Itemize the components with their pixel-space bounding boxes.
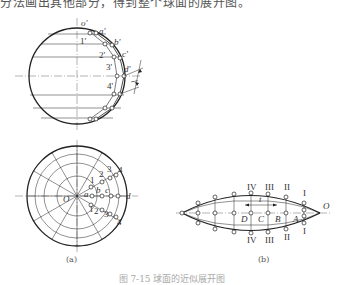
development-view xyxy=(176,191,330,235)
label-O-center: O xyxy=(63,194,70,204)
label-3-prime: 3' xyxy=(106,62,113,72)
upper-num-1: 1 xyxy=(90,175,95,185)
upper-roman-III: III xyxy=(265,182,274,192)
lower-roman-I: I xyxy=(303,226,306,236)
lower-num-4: 4 xyxy=(117,217,122,227)
label-4-prime: 4' xyxy=(107,81,114,91)
front-view xyxy=(15,18,143,130)
upper-num-3: 3 xyxy=(107,164,112,174)
upper-roman-I: I xyxy=(303,188,306,198)
label-1-prime: 1' xyxy=(80,36,87,46)
label-c: c xyxy=(105,185,109,195)
label-b-prime: b' xyxy=(114,37,122,47)
upper-num-2: 2 xyxy=(99,169,104,179)
label-C: C xyxy=(258,214,265,224)
label-D: D xyxy=(240,214,248,224)
upper-roman-IV: IV xyxy=(247,182,257,192)
label-o-prime: o' xyxy=(81,18,89,28)
lower-roman-IV: IV xyxy=(247,235,257,245)
lower-num-2: 2 xyxy=(94,206,99,216)
lower-num-3: 3 xyxy=(104,209,109,219)
label-2-prime: 2' xyxy=(99,50,106,60)
label-b: b xyxy=(96,185,101,195)
upper-roman-II: II xyxy=(284,182,290,192)
upper-num-4: 4 xyxy=(118,165,123,175)
subfigure-label-b: (b) xyxy=(258,255,269,264)
top-view xyxy=(15,140,138,252)
label-a: a xyxy=(84,189,89,199)
label-a-prime: a' xyxy=(99,26,107,36)
figure-caption: 图 7-15 球面的近似展开图 xyxy=(0,272,344,285)
label-B: B xyxy=(275,214,281,224)
label-O-end: O xyxy=(323,201,330,211)
lower-roman-III: III xyxy=(265,235,274,245)
lower-num-1: 1 xyxy=(89,204,94,214)
lower-roman-II: II xyxy=(284,232,290,242)
label-d-prime: d' xyxy=(124,64,132,74)
subfigure-label-a: (a) xyxy=(66,255,77,264)
label-c-prime: c' xyxy=(122,49,129,59)
label-d: d xyxy=(126,191,131,201)
label-A: A xyxy=(292,214,299,224)
